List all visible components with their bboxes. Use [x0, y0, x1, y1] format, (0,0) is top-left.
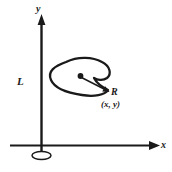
- centroid-coordinates-label: (x, y): [101, 100, 120, 109]
- x-axis-arrowhead: [149, 141, 160, 150]
- y-axis-label: y: [36, 4, 40, 14]
- math-figure: y x L R (x, y): [0, 0, 172, 172]
- region-label-R: R: [111, 87, 118, 97]
- axis-length-label-L: L: [17, 76, 24, 87]
- y-axis-arrowhead: [38, 14, 46, 25]
- x-axis-label: x: [161, 140, 166, 150]
- figure-canvas: [0, 0, 172, 172]
- revolution-ellipse: [32, 152, 51, 160]
